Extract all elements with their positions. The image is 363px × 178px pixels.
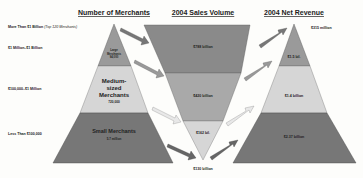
tier-label-4: Less Than $100,000	[8, 132, 42, 136]
svg-text:$315 million: $315 million	[311, 26, 332, 30]
pyramid-large-band	[98, 24, 131, 66]
title-sales: 2004 Sales Volume	[172, 9, 235, 16]
svg-text:$2.37 billion: $2.37 billion	[284, 135, 305, 139]
tier-label-1: More Than $1 Billion (Top 120 Merchants)	[8, 25, 77, 29]
tier-label-3: $100,000–$1 Million	[8, 87, 41, 91]
title-revenue: 2004 Net Revenue	[264, 9, 324, 16]
svg-text:Small Merchants: Small Merchants	[92, 128, 136, 134]
merchant-diagram: Number of Merchants 2004 Sales Volume 20…	[0, 0, 363, 178]
revenue-medium-band	[261, 66, 327, 113]
funnel-top-band	[144, 25, 250, 73]
svg-text:$788 billion: $788 billion	[193, 45, 213, 49]
svg-text:$130 billion: $130 billion	[193, 167, 213, 171]
svg-text:5.7 million: 5.7 million	[107, 137, 122, 141]
svg-text:Merchants: Merchants	[99, 92, 130, 98]
svg-text:$1.5 bil.: $1.5 bil.	[287, 55, 300, 59]
svg-text:94,000: 94,000	[110, 55, 119, 59]
svg-text:$420 billion: $420 billion	[193, 94, 213, 98]
svg-text:sized: sized	[106, 85, 121, 91]
tier-label-2: $1 Million–$1 Billion	[8, 46, 42, 50]
svg-text:$1.4 billion: $1.4 billion	[285, 94, 304, 98]
svg-text:Medium-: Medium-	[102, 78, 127, 84]
svg-text:$162 bil.: $162 bil.	[196, 131, 210, 135]
title-merchants: Number of Merchants	[78, 9, 150, 16]
svg-text:720,000: 720,000	[108, 100, 120, 104]
